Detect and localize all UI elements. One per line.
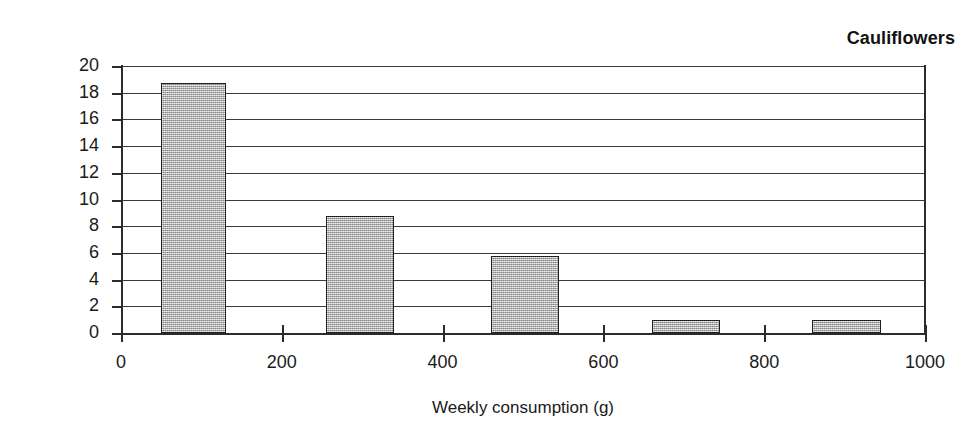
gridline <box>121 66 925 67</box>
x-axis-tick-label: 0 <box>116 352 126 373</box>
plot-right-border <box>924 65 926 334</box>
y-axis-tick-label: 14 <box>79 135 99 156</box>
y-axis-tick-label: 12 <box>79 162 99 183</box>
y-axis-line <box>121 65 123 334</box>
x-axis-tick <box>443 325 445 342</box>
y-axis-tick: 18 <box>112 93 121 95</box>
gridline <box>121 119 925 120</box>
y-axis-tick: 0 <box>112 333 121 335</box>
y-axis-tick: 8 <box>112 226 121 228</box>
page-title: Cauliflowers <box>847 28 955 49</box>
x-axis-tick-label: 400 <box>428 352 458 373</box>
y-axis-tick: 2 <box>112 306 121 308</box>
chart-page: Cauliflowers Number of people 0246810121… <box>0 0 975 441</box>
y-axis-tick: 16 <box>112 119 121 121</box>
gridline <box>121 146 925 147</box>
gridline <box>121 226 925 227</box>
gridline <box>121 253 925 254</box>
y-axis-tick-label: 10 <box>79 189 99 210</box>
bar <box>652 320 720 333</box>
y-axis-tick-label: 16 <box>79 109 99 130</box>
x-axis-tick-label: 800 <box>749 352 779 373</box>
y-axis-tick-label: 2 <box>89 296 99 317</box>
x-axis-tick <box>603 325 605 342</box>
y-axis-tick: 14 <box>112 146 121 148</box>
y-axis-tick: 10 <box>112 200 121 202</box>
x-axis-tick <box>282 325 284 342</box>
x-axis-baseline <box>121 333 925 335</box>
y-axis-tick: 6 <box>112 253 121 255</box>
plot-area: 02468101214161820 02004006008001000 <box>121 66 925 333</box>
y-axis-tick: 12 <box>112 173 121 175</box>
bar <box>161 83 225 333</box>
x-axis-tick <box>764 325 766 342</box>
y-axis-tick: 20 <box>112 66 121 68</box>
y-axis-tick: 4 <box>112 280 121 282</box>
x-axis-label: Weekly consumption (g) <box>121 398 925 418</box>
bar <box>326 216 394 333</box>
gridline <box>121 173 925 174</box>
y-axis-tick-label: 18 <box>79 82 99 103</box>
y-axis-tick-label: 8 <box>89 216 99 237</box>
bar <box>491 256 559 333</box>
y-axis-tick-label: 6 <box>89 242 99 263</box>
x-axis-tick-label: 1000 <box>905 352 945 373</box>
y-axis-tick-label: 20 <box>79 55 99 76</box>
y-axis-tick-label: 0 <box>89 322 99 343</box>
x-axis-tick-label: 200 <box>267 352 297 373</box>
gridline <box>121 200 925 201</box>
x-axis-tick-label: 600 <box>588 352 618 373</box>
y-axis-tick-label: 4 <box>89 269 99 290</box>
gridline <box>121 93 925 94</box>
bar <box>812 320 880 333</box>
